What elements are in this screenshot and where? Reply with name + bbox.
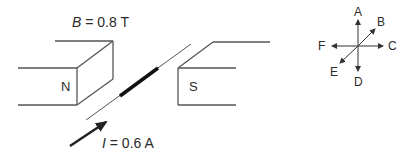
direction-a: A [354,6,362,18]
south-magnet [178,42,270,105]
direction-d: D [354,76,363,88]
current-value: = 0.6 A [106,135,154,151]
direction-e: E [330,66,338,78]
field-label: B = 0.8 T [72,15,129,29]
direction-f: F [318,40,325,52]
direction-b: B [377,16,385,28]
field-symbol: B [72,14,81,30]
field-value: = 0.8 T [81,14,129,30]
current-arrow [70,122,106,146]
direction-key [332,20,383,71]
wire [86,44,191,120]
north-magnet [18,41,113,105]
direction-c: C [388,40,397,52]
south-pole-label: S [189,80,198,93]
north-pole-label: N [61,80,70,93]
current-label: I = 0.6 A [102,136,154,150]
